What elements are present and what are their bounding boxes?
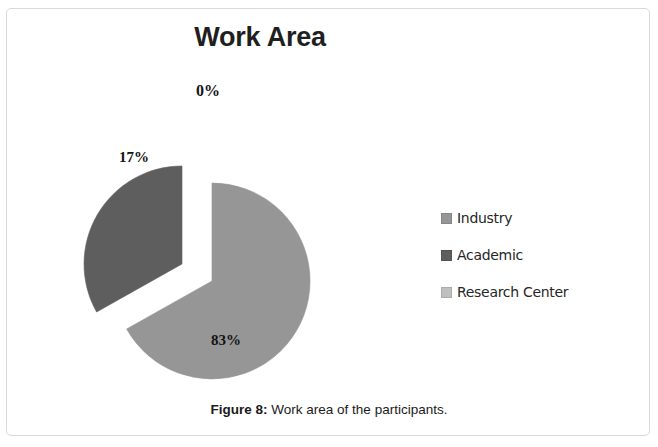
figure-caption-text: Work area of the participants. [268,402,448,417]
pie-label-research-center: 0% [196,82,220,99]
legend-item-industry[interactable]: Industry [441,203,641,233]
legend-item-academic[interactable]: Academic [441,240,641,270]
legend-swatch-industry [441,213,452,224]
legend-swatch-academic [441,250,452,261]
legend-label-research-center: Research Center [457,284,568,300]
pie-label-academic: 17% [119,149,149,165]
chart-legend: Industry Academic Research Center [441,203,641,314]
pie-chart: Work Area 0% 17% 83% Industry [0,0,658,392]
pie-svg: 0% 17% 83% [72,70,392,390]
chart-title: Work Area [0,22,520,53]
pie-slice-academic[interactable] [84,166,182,312]
pie-plot-area: 0% 17% 83% [72,70,392,390]
pie-label-industry: 83% [211,332,241,348]
legend-label-academic: Academic [457,247,523,263]
figure-container: Work Area 0% 17% 83% Industry [0,0,658,447]
pie-slice-academic-group [84,166,182,312]
figure-caption-label: Figure 8: [211,402,268,417]
legend-label-industry: Industry [457,210,512,226]
legend-swatch-research-center [441,287,452,298]
figure-caption: Figure 8: Work area of the participants. [0,402,658,417]
legend-item-research-center[interactable]: Research Center [441,277,641,307]
